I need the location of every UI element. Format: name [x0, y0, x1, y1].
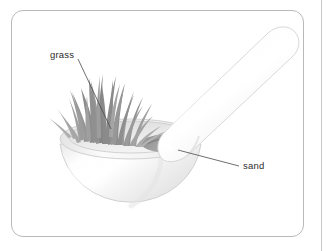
label-grass: grass [50, 49, 74, 60]
page-edge-line [321, 0, 322, 251]
figure-root: grass sand [0, 0, 327, 251]
pestle [158, 27, 299, 162]
pestle-body [158, 27, 299, 162]
label-sand: sand [243, 160, 264, 171]
mortar-bowl-highlight [65, 152, 133, 204]
illustration-canvas [11, 10, 304, 237]
